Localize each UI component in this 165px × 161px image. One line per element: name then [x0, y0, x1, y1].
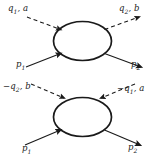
- label-p2-bottom: p2: [128, 143, 137, 154]
- label-p2-top-subscript: 2: [137, 64, 141, 71]
- feynman-diagram-figure: q1, a q2, b p1 p2 −q2, b −q1, a p1 p2: [0, 0, 165, 161]
- label-p1-top-subscript: 1: [22, 64, 26, 71]
- label-minus-q1-a-symbol: −q: [117, 83, 130, 93]
- label-p1-bottom-subscript: 1: [28, 148, 32, 155]
- bottom-blob: [54, 98, 112, 137]
- label-p1-bottom: p1: [22, 144, 31, 155]
- top-blob: [54, 22, 112, 61]
- label-q2-b-suffix: , b: [128, 3, 139, 13]
- label-minus-q1-a: −q1, a: [117, 84, 144, 95]
- label-p2-bottom-subscript: 2: [134, 147, 138, 154]
- label-q1-a-suffix: , a: [17, 3, 28, 13]
- bottom-leg-p1: [25, 130, 61, 145]
- label-minus-q1-a-suffix: , a: [134, 83, 145, 93]
- top-leg-p1: [26, 54, 61, 68]
- top-leg-q1-a: [27, 17, 61, 30]
- label-q2-b: q2, b: [119, 4, 140, 15]
- label-minus-q2-b-suffix: , b: [20, 81, 31, 91]
- label-p1-top: p1: [16, 60, 25, 71]
- top-diagram: [26, 17, 141, 67]
- top-leg-q2-b: [105, 17, 140, 30]
- label-p2-top: p2: [131, 60, 140, 71]
- label-minus-q2-b-symbol: −q: [3, 81, 16, 91]
- label-minus-q2-b: −q2, b: [3, 82, 31, 93]
- bottom-leg-minus-q2-b: [31, 84, 64, 98]
- label-q1-a: q1, a: [8, 4, 28, 15]
